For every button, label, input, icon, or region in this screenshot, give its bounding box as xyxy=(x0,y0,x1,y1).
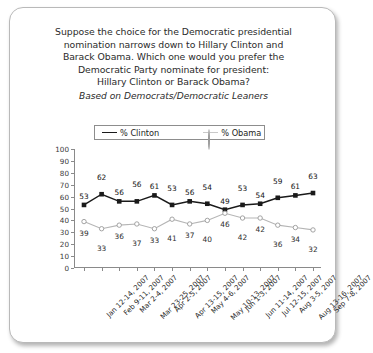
x-tick xyxy=(154,268,155,271)
y-tick-label: 80 xyxy=(60,168,69,177)
data-label: 54 xyxy=(255,190,264,199)
data-point-marker xyxy=(152,227,156,231)
data-label: 59 xyxy=(273,176,282,185)
x-tick xyxy=(190,268,191,271)
data-point-marker xyxy=(240,216,244,220)
data-point-marker xyxy=(187,222,191,226)
data-label: 37 xyxy=(185,230,194,239)
data-point-marker xyxy=(170,203,175,208)
y-tick-label: 20 xyxy=(60,240,69,249)
data-label: 39 xyxy=(79,228,88,237)
data-point-marker xyxy=(258,216,262,220)
x-tick xyxy=(137,268,138,271)
data-point-marker xyxy=(82,219,86,223)
data-point-marker xyxy=(117,199,122,204)
data-label: 46 xyxy=(220,220,229,229)
data-point-marker xyxy=(152,193,157,198)
y-tick xyxy=(71,268,74,269)
y-tick-label: 50 xyxy=(60,204,69,213)
data-label: 49 xyxy=(220,196,229,205)
data-label: 61 xyxy=(150,182,159,191)
x-tick xyxy=(260,268,261,271)
data-point-marker xyxy=(275,195,280,200)
data-point-marker xyxy=(205,201,210,206)
chart-card: Suppose the choice for the Democratic pr… xyxy=(9,7,336,343)
data-point-marker xyxy=(135,222,139,226)
x-tick xyxy=(278,268,279,271)
data-label: 40 xyxy=(203,235,212,244)
data-point-marker xyxy=(205,218,209,222)
y-tick-label: 0 xyxy=(64,264,69,273)
data-label: 56 xyxy=(115,188,124,197)
data-label: 36 xyxy=(115,232,124,241)
data-point-marker xyxy=(187,199,192,204)
data-label: 37 xyxy=(132,238,141,247)
data-label: 62 xyxy=(97,173,106,182)
chart-axes: 0102030405060708090100 53625656615356544… xyxy=(74,149,321,268)
series-lines xyxy=(74,149,321,268)
data-label: 32 xyxy=(308,244,317,253)
x-tick xyxy=(295,268,296,271)
y-tick-label: 100 xyxy=(55,145,69,154)
data-point-marker xyxy=(170,217,174,221)
x-tick xyxy=(243,268,244,271)
y-tick-label: 90 xyxy=(60,156,69,165)
x-tick xyxy=(102,268,103,271)
data-point-marker xyxy=(311,228,315,232)
data-label: 34 xyxy=(291,234,300,243)
y-tick-label: 10 xyxy=(60,252,69,261)
data-label: 56 xyxy=(132,180,141,189)
data-point-marker xyxy=(99,192,104,197)
data-label: 53 xyxy=(238,183,247,192)
y-tick-label: 40 xyxy=(60,216,69,225)
data-label: 63 xyxy=(308,172,317,181)
y-tick-label: 70 xyxy=(60,180,69,189)
data-label: 53 xyxy=(167,183,176,192)
data-point-marker xyxy=(293,193,298,198)
data-point-marker xyxy=(99,227,103,231)
data-label: 56 xyxy=(185,188,194,197)
data-label: 36 xyxy=(273,240,282,249)
data-point-marker xyxy=(135,199,140,204)
data-point-marker xyxy=(240,203,245,208)
data-point-marker xyxy=(311,191,316,196)
data-point-marker xyxy=(223,211,227,215)
data-label: 42 xyxy=(238,233,247,242)
x-tick xyxy=(313,268,314,271)
data-point-marker xyxy=(117,223,121,227)
data-point-marker xyxy=(258,201,263,206)
data-label: 41 xyxy=(167,234,176,243)
data-label: 42 xyxy=(255,225,264,234)
data-label: 61 xyxy=(291,182,300,191)
x-tick xyxy=(119,268,120,271)
data-point-marker xyxy=(293,225,297,229)
data-point-marker xyxy=(82,203,87,208)
y-tick-label: 30 xyxy=(60,228,69,237)
x-tick xyxy=(225,268,226,271)
data-label: 54 xyxy=(203,182,212,191)
y-tick-label: 60 xyxy=(60,192,69,201)
data-label: 33 xyxy=(150,235,159,244)
x-tick xyxy=(207,268,208,271)
data-label: 33 xyxy=(97,243,106,252)
x-tick xyxy=(172,268,173,271)
data-label: 53 xyxy=(79,191,88,200)
data-point-marker xyxy=(276,223,280,227)
plot-area: 0102030405060708090100 53625656615356544… xyxy=(10,8,337,344)
x-tick xyxy=(84,268,85,271)
